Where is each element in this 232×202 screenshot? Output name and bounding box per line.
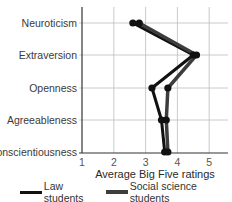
gridlines	[79, 7, 228, 153]
legend-label-law: Law students	[44, 180, 96, 202]
category-label: Agreeableness	[7, 114, 77, 126]
x-tick-label: 1	[79, 156, 85, 168]
x-axis-title: Average Big Five ratings	[95, 168, 215, 180]
legend-item-social-science: Social science students	[106, 180, 222, 202]
category-labels: NeuroticismExtraversionOpennessAgreeable…	[0, 17, 77, 158]
category-label: Extraversion	[19, 49, 78, 61]
category-label: Neuroticism	[22, 17, 78, 29]
legend-swatch-law	[20, 191, 42, 194]
category-label: Conscientiousness	[0, 146, 77, 158]
legend-item-law: Law students	[20, 180, 96, 202]
chart: NeuroticismExtraversionOpennessAgreeable…	[0, 0, 232, 202]
x-tick-label: 2	[111, 156, 117, 168]
legend-label-social-science: Social science students	[130, 180, 222, 202]
x-tick-label: 4	[174, 156, 180, 168]
x-tick-label: 3	[143, 156, 149, 168]
data-series	[129, 19, 200, 155]
axes	[79, 7, 228, 153]
data-point	[136, 19, 143, 26]
legend: Law students Social science students	[20, 185, 232, 199]
data-point	[148, 84, 155, 91]
category-label: Openness	[29, 82, 77, 94]
data-point	[129, 19, 136, 26]
x-tick-label: 5	[206, 156, 212, 168]
data-point	[164, 148, 171, 155]
data-point	[163, 116, 170, 123]
series-line	[133, 23, 193, 152]
data-point	[193, 51, 200, 58]
data-point	[164, 84, 171, 91]
legend-swatch-social-science	[106, 190, 128, 194]
x-tick-labels: 12345	[79, 156, 212, 168]
